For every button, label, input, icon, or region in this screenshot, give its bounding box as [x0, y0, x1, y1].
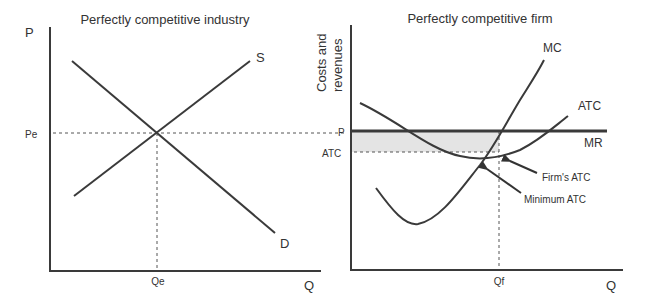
firm-chart: Perfectly competitive firm Costs and rev… — [314, 11, 623, 293]
firm-x-label: Q — [606, 278, 616, 293]
demand-curve — [72, 61, 275, 233]
p-tick-label: P — [338, 127, 345, 138]
industry-y-label: P — [25, 25, 34, 40]
industry-x-label: Q — [304, 278, 314, 293]
demand-label: D — [280, 236, 289, 251]
qf-label: Qf — [494, 276, 505, 287]
mr-label: MR — [584, 136, 603, 150]
firm-y-label-line2: revenues — [330, 38, 345, 92]
firm-title: Perfectly competitive firm — [407, 11, 552, 26]
industry-title: Perfectly competitive industry — [80, 12, 250, 27]
qe-label: Qe — [151, 276, 165, 287]
atc-tick-label: ATC — [322, 148, 341, 159]
supply-label: S — [256, 50, 265, 65]
firm-y-label-line1: Costs and — [314, 33, 329, 92]
pe-label: Pe — [25, 129, 38, 140]
minimum-atc-annotation: Minimum ATC — [524, 194, 586, 205]
firms-atc-arrow — [510, 161, 537, 173]
industry-chart: Perfectly competitive industry P Q Pe Qe… — [25, 12, 345, 293]
mc-label: MC — [543, 41, 562, 55]
supply-curve — [74, 61, 250, 196]
economics-diagram: Perfectly competitive industry P Q Pe Qe… — [0, 0, 645, 306]
atc-curve-label: ATC — [578, 99, 601, 113]
minimum-atc-arrow — [487, 169, 521, 193]
firms-atc-annotation: Firm's ATC — [542, 172, 590, 183]
